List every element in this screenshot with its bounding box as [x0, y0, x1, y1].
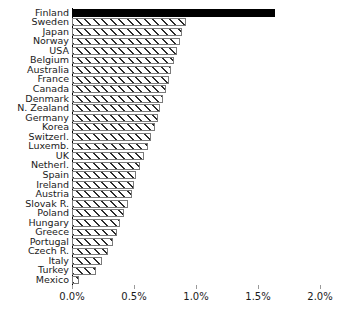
bar-row: [72, 267, 320, 275]
bar: [72, 238, 113, 246]
bar: [72, 209, 124, 217]
x-axis-tick-label: 1.5%: [245, 291, 270, 302]
bar: [72, 190, 132, 198]
bar-row: [72, 123, 320, 131]
bar-chart: FinlandSwedenJapanNorwayUSABelgiumAustra…: [0, 0, 351, 318]
bar: [72, 171, 136, 179]
bar-row: [72, 248, 320, 256]
category-label: Mexico: [36, 275, 69, 285]
x-axis-tick-label: 2.0%: [307, 291, 332, 302]
bar-row: [72, 276, 320, 284]
bar-row: [72, 143, 320, 151]
bar: [72, 57, 174, 65]
bar-row: [72, 209, 320, 217]
bar: [72, 152, 144, 160]
x-axis-tick: [320, 285, 321, 289]
x-axis-tick-label: 0.0%: [59, 291, 84, 302]
bar-row: [72, 95, 320, 103]
bar-row: [72, 162, 320, 170]
bar: [72, 38, 180, 46]
bar-row: [72, 47, 320, 55]
bar-row: [72, 238, 320, 246]
bar-row: [72, 85, 320, 93]
bar: [72, 95, 163, 103]
bar-row: [72, 133, 320, 141]
bar: [72, 257, 102, 265]
bar-row: [72, 257, 320, 265]
bar: [72, 66, 171, 74]
bar: [72, 47, 177, 55]
bar: [72, 219, 120, 227]
x-axis-tick: [258, 285, 259, 289]
bar: [72, 114, 158, 122]
bar: [72, 85, 166, 93]
bar: [72, 18, 186, 26]
bar: [72, 76, 169, 84]
bar-row: [72, 190, 320, 198]
bar: [72, 104, 160, 112]
bar-row: [72, 18, 320, 26]
bar: [72, 181, 134, 189]
bar-row: [72, 57, 320, 65]
bar: [72, 28, 182, 36]
bar-row: [72, 28, 320, 36]
bar-row: [72, 229, 320, 237]
bar-row: [72, 200, 320, 208]
bar-row: [72, 114, 320, 122]
x-axis-tick: [72, 285, 73, 289]
x-axis-tick-label: 0.5%: [121, 291, 146, 302]
x-axis-tick: [196, 285, 197, 289]
bar-highlight: [72, 9, 275, 17]
bar: [72, 162, 140, 170]
bar: [72, 276, 79, 284]
bar: [72, 133, 151, 141]
plot-area: [72, 8, 320, 285]
bar: [72, 229, 117, 237]
bar-row: [72, 152, 320, 160]
bar: [72, 248, 108, 256]
bar: [72, 200, 128, 208]
bar: [72, 267, 96, 275]
bar-row: [72, 219, 320, 227]
bar-row: [72, 181, 320, 189]
x-axis-tick: [134, 285, 135, 289]
bar-row: [72, 38, 320, 46]
bar-row: [72, 171, 320, 179]
bar: [72, 143, 148, 151]
bar-row: [72, 104, 320, 112]
bar: [72, 123, 155, 131]
category-axis-labels: FinlandSwedenJapanNorwayUSABelgiumAustra…: [0, 8, 69, 285]
x-axis-tick-label: 1.0%: [183, 291, 208, 302]
bar-row: [72, 9, 320, 17]
bar-row: [72, 66, 320, 74]
bar-row: [72, 76, 320, 84]
